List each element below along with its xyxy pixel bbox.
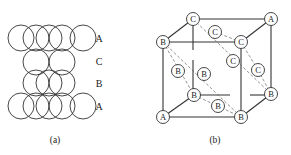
svg-text:C: C bbox=[190, 14, 196, 24]
svg-text:B: B bbox=[238, 112, 244, 122]
svg-text:B: B bbox=[175, 66, 181, 76]
atom-b-top-front-left: B bbox=[157, 36, 170, 49]
atom-c-top-back-left: C bbox=[187, 13, 200, 26]
atom-b-inner: B bbox=[198, 68, 211, 81]
atom-b-bottom-face: B bbox=[212, 100, 225, 113]
figure-canvas: A C B A (a) bbox=[0, 0, 291, 155]
atom-b-bottom-front-right: B bbox=[235, 111, 248, 124]
atom-c-right-face: C bbox=[252, 64, 265, 77]
atom-a-top-back-right: A bbox=[265, 13, 278, 26]
atom-a-bottom-front-left: A bbox=[157, 111, 170, 124]
layer-a-top bbox=[8, 25, 96, 51]
svg-text:B: B bbox=[215, 101, 221, 111]
svg-text:A: A bbox=[160, 112, 167, 122]
svg-text:B: B bbox=[201, 69, 207, 79]
atom-c-inner: C bbox=[227, 55, 240, 68]
atom-b-bottom-back-left: B bbox=[188, 89, 201, 102]
panel-b-cube: C A B C C C C B B B B B A B (b) bbox=[157, 13, 278, 147]
layer-label-c: C bbox=[96, 56, 103, 67]
caption-a: (a) bbox=[50, 135, 61, 146]
svg-text:B: B bbox=[191, 90, 197, 100]
panel-a-stacking: A C B A (a) bbox=[8, 25, 103, 146]
atom-c-top-face: C bbox=[209, 26, 222, 39]
atom-b-bottom-back-right: B bbox=[265, 88, 278, 101]
svg-text:A: A bbox=[268, 14, 275, 24]
atom-c-top-front-right: C bbox=[235, 36, 248, 49]
svg-text:C: C bbox=[238, 37, 244, 47]
svg-text:B: B bbox=[160, 37, 166, 47]
layer-a-bottom bbox=[8, 93, 96, 119]
layer-label-a-bottom: A bbox=[95, 101, 103, 112]
svg-text:B: B bbox=[268, 89, 274, 99]
layer-label-a-top: A bbox=[95, 33, 103, 44]
caption-b: (b) bbox=[209, 135, 220, 146]
atom-b-left-face: B bbox=[172, 65, 185, 78]
svg-text:C: C bbox=[230, 56, 236, 66]
svg-text:C: C bbox=[255, 65, 261, 75]
layer-label-b: B bbox=[96, 78, 103, 89]
svg-text:C: C bbox=[212, 27, 218, 37]
